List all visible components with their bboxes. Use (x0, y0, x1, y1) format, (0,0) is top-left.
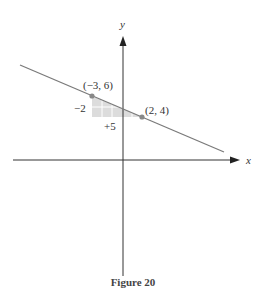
y-axis-arrow-icon (120, 36, 127, 46)
point-a (89, 93, 94, 98)
point-a-label: (−3, 6) (83, 79, 113, 92)
run-label: +5 (104, 120, 116, 132)
point-b-label: (2, 4) (145, 104, 169, 117)
point-b (139, 114, 144, 119)
graph-line (20, 65, 224, 152)
figure-caption: Figure 20 (111, 276, 156, 288)
x-axis-arrow-icon (230, 157, 240, 164)
rise-label: −2 (74, 102, 86, 114)
y-axis-label: y (119, 18, 125, 30)
figure-canvas: x y (−3, 6) (2, 4) −2 +5 Figure 20 (0, 0, 266, 296)
x-axis-label: x (245, 154, 251, 166)
